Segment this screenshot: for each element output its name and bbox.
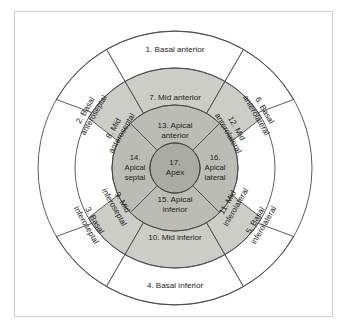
segment-label-text: 15. Apical — [157, 195, 192, 204]
segment-label-text: Apical — [125, 163, 146, 172]
segment-label-13: 13. Apicalanterior — [157, 121, 192, 140]
bullseye-diagram: 1. Basal anterior2. Basalanteroseptal3. … — [0, 0, 348, 329]
segment-label-text: 13. Apical — [157, 121, 192, 130]
segment-label-4: 4. Basal inferior — [147, 281, 204, 290]
segment-label-text: 10. Mid inferior — [148, 233, 202, 242]
segment-label-text: lateral — [205, 173, 226, 182]
segment-label-text: 1. Basal anterior — [146, 45, 205, 54]
segment-label-text: 14. — [130, 153, 141, 162]
segment-label-text: 16. — [210, 153, 221, 162]
segment-label-text: inferior — [163, 205, 188, 214]
segment-label-text: 7. Mid anterior — [149, 93, 201, 102]
segment-label-text: 17. — [169, 158, 180, 167]
segment-label-text: septal — [125, 173, 146, 182]
segment-label-text: Apex — [166, 168, 184, 177]
segment-label-text: 4. Basal inferior — [147, 281, 204, 290]
segment-label-text: anterior — [161, 131, 189, 140]
segment-label-text: Apical — [205, 163, 226, 172]
segment-label-1: 1. Basal anterior — [146, 45, 205, 54]
segment-label-10: 10. Mid inferior — [148, 233, 202, 242]
segment-label-7: 7. Mid anterior — [149, 93, 201, 102]
